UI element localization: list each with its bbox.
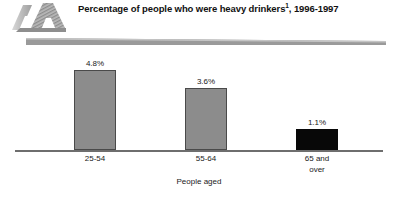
category-label-65-and-over: 65 and over xyxy=(287,154,347,175)
header-divider xyxy=(26,31,386,38)
bar-chart-plot-area: 4.8% 25-54 3.6% 55-64 1.1% 65 and over P… xyxy=(0,46,398,200)
bar-value-25-54: 4.8% xyxy=(86,59,104,69)
statistics-canada-chevron-logo-icon xyxy=(10,2,68,34)
category-label-55-64: 55-64 xyxy=(176,154,236,165)
x-axis-baseline xyxy=(15,150,383,152)
bar-value-55-64: 3.6% xyxy=(197,77,215,87)
bar-25-54[interactable]: 4.8% xyxy=(74,70,116,150)
x-axis-title: People aged xyxy=(0,177,398,186)
bar-65-and-over[interactable]: 1.1% xyxy=(296,129,338,150)
page-title: Percentage of people who were heavy drin… xyxy=(78,3,394,15)
chart-header: Percentage of people who were heavy drin… xyxy=(0,0,398,46)
bar-value-65-and-over: 1.1% xyxy=(308,118,326,128)
category-label-25-54: 25-54 xyxy=(65,154,125,165)
page-title-years: , 1996-1997 xyxy=(289,3,339,14)
page-title-text: Percentage of people who were heavy drin… xyxy=(78,3,285,14)
bar-55-64[interactable]: 3.6% xyxy=(185,88,227,150)
